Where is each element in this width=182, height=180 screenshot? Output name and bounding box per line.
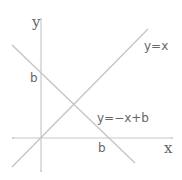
line1-label: y=x <box>144 39 168 53</box>
y-intercept-label: b <box>30 71 38 85</box>
x-axis-start-dot <box>12 137 14 139</box>
coordinate-diagram: y x y=x y=−x+b b b <box>0 0 182 180</box>
x-intercept-label: b <box>98 141 106 155</box>
y-axis-end-dot <box>40 170 42 172</box>
line2-label: y=−x+b <box>97 111 149 125</box>
line-y-equals-x <box>12 29 148 167</box>
y-axis-label: y <box>31 13 41 31</box>
x-axis-label: x <box>164 139 173 157</box>
line-y-equals-neg-x-plus-b <box>12 45 135 163</box>
